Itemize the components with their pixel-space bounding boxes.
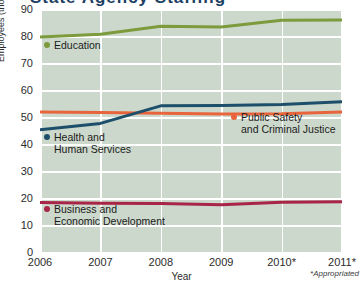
legend-label: Education: [54, 39, 101, 51]
y-tick-40: 40: [3, 138, 33, 150]
y-tick-80: 80: [3, 30, 33, 42]
cropped-title-text: State Agency Staffing: [30, 0, 226, 8]
legend-marker-icon: [231, 114, 237, 120]
x-tick-2008: 2008: [149, 256, 173, 268]
x-tick-2011-est: 2011*: [328, 256, 356, 268]
legend-label: Business and: [54, 203, 117, 215]
y-tick-30: 30: [3, 165, 33, 177]
legend-business-economic-development: Business andEconomic Development: [44, 202, 165, 227]
footnote-appropriated: *Appropriated: [310, 269, 359, 278]
legend-marker-icon: [44, 206, 50, 212]
legend-label: Health and: [54, 131, 105, 143]
cropped-title-sliver: State Agency Staffing: [0, 0, 363, 9]
x-axis-title: Year: [0, 271, 363, 282]
line-chart: State Agency Staffing Employees (thousan…: [0, 0, 363, 283]
legend-education: Education: [44, 38, 101, 51]
x-tick-2007: 2007: [88, 256, 112, 268]
y-tick-70: 70: [3, 57, 33, 69]
legend-label-line2: Economic Development: [54, 215, 165, 227]
legend-public-safety-criminal-justice: Public Safetyand Criminal Justice: [231, 110, 336, 135]
legend-marker-icon: [44, 42, 50, 48]
y-tick-90: 90: [3, 3, 33, 15]
series-line-education: [40, 20, 342, 37]
x-tick-2006: 2006: [28, 256, 52, 268]
y-tick-10: 10: [3, 219, 33, 231]
x-tick-2009: 2009: [209, 256, 233, 268]
y-tick-50: 50: [3, 111, 33, 123]
x-tick-2010-est: 2010*: [267, 256, 296, 268]
legend-marker-icon: [44, 134, 50, 140]
y-tick-60: 60: [3, 84, 33, 96]
legend-label-line2: and Criminal Justice: [241, 123, 336, 135]
y-tick-20: 20: [3, 192, 33, 204]
legend-health-human-services: Health andHuman Services: [44, 130, 131, 155]
legend-label-line2: Human Services: [54, 143, 131, 155]
legend-label: Public Safety: [241, 111, 302, 123]
